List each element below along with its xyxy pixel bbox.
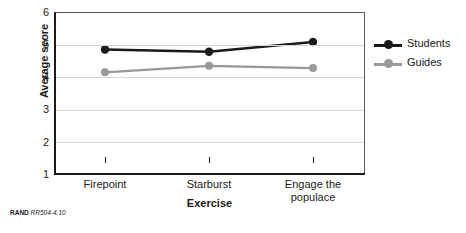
data-point-marker — [101, 68, 109, 76]
legend-label: Guides — [407, 56, 442, 68]
plot-area — [54, 12, 365, 175]
legend-label: Students — [407, 37, 450, 49]
data-point-marker — [205, 62, 213, 70]
data-point-marker — [309, 64, 317, 72]
legend: Students Guides — [374, 36, 466, 74]
gridline-4 — [56, 77, 364, 78]
data-point-marker — [205, 48, 213, 56]
series-lines — [54, 12, 365, 175]
x-tick-mark — [209, 157, 210, 163]
y-tick-label: 2 — [33, 136, 49, 148]
gridline-5 — [56, 45, 364, 46]
gridline-2 — [56, 142, 364, 143]
x-tick-mark — [105, 157, 106, 163]
figure: Average score 6 5 4 3 2 1 Firepoint Star… — [0, 0, 466, 233]
y-tick-label: 1 — [33, 168, 49, 180]
legend-item-students[interactable]: Students — [374, 36, 466, 55]
figure-source-note: RAND RR504-4.10 — [10, 209, 66, 216]
legend-item-guides[interactable]: Guides — [374, 55, 466, 74]
legend-marker-dot — [384, 59, 393, 68]
footer-code: RR504-4.10 — [31, 209, 66, 216]
legend-marker-dot — [384, 40, 393, 49]
x-axis-title: Exercise — [54, 197, 365, 209]
x-category-label-starburst: Starburst — [159, 178, 259, 191]
data-point-marker — [101, 45, 109, 53]
x-axis-line — [54, 173, 365, 175]
y-axis-line — [54, 12, 56, 175]
x-tick-mark — [313, 157, 314, 163]
x-category-line: Starburst — [159, 178, 259, 191]
x-category-line: Firepoint — [55, 178, 155, 191]
footer-brand: RAND — [10, 209, 29, 216]
plot-frame-right — [364, 12, 365, 175]
x-category-label-firepoint: Firepoint — [55, 178, 155, 191]
gridline-3 — [56, 110, 364, 111]
plot-frame-top — [54, 12, 365, 13]
x-category-line: Engage the — [263, 178, 363, 191]
